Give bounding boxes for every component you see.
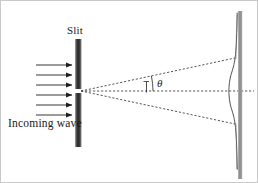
- intensity-side-lobes: [236, 15, 238, 59]
- theta-angle-label: θ: [157, 78, 162, 89]
- incoming-wave-label: Incoming wave: [8, 118, 82, 130]
- slit-label: Slit: [67, 25, 83, 36]
- slit-barrier: [75, 39, 82, 147]
- incoming-wave-arrows: [36, 65, 72, 115]
- diffraction-figure: Slit Incoming wave θ: [0, 0, 258, 183]
- diagram-canvas: [1, 1, 258, 183]
- barrier-upper-segment: [75, 39, 82, 89]
- dashed-rays: [81, 58, 254, 124]
- lower-ray: [81, 91, 235, 124]
- observation-screen: [238, 11, 242, 179]
- theta-angle-arc: [151, 76, 153, 91]
